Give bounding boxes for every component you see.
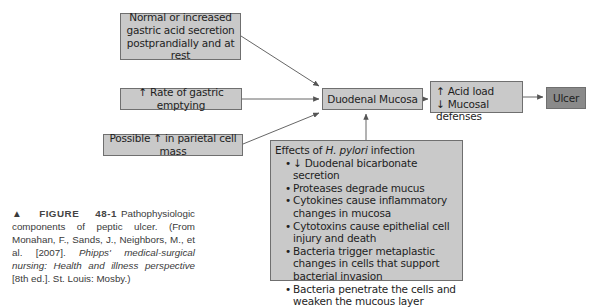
triangle-marker-icon: ▲ xyxy=(12,208,23,219)
caption-text-end: [8th ed.]. St. Louis: Mosby.) xyxy=(12,273,131,284)
node-line: postprandially and at rest xyxy=(121,37,240,62)
h-pylori-effects-list: ↓ Duodenal bicarbonate secretion Proteas… xyxy=(271,157,462,308)
figure-number: 48-1 xyxy=(95,208,117,219)
figure-label: FIGURE xyxy=(39,208,79,219)
node-label: Possible ↑ in parietal cell mass xyxy=(104,132,242,157)
list-item: Cytotoxins cause epithelial cell injury … xyxy=(285,220,462,245)
node-line: gastric acid secretion xyxy=(121,24,240,37)
h-pylori-title: Effects of H. pylori infection xyxy=(271,141,462,157)
node-line: ↑ Acid load xyxy=(436,85,522,98)
list-item: Cytokines cause inflammatory changes in … xyxy=(285,194,462,219)
node-normal-acid-secretion: Normal or increased gastric acid secreti… xyxy=(120,13,241,60)
node-parietal-cell-mass: Possible ↑ in parietal cell mass xyxy=(103,134,243,156)
node-h-pylori-effects: Effects of H. pylori infection ↓ Duodena… xyxy=(270,140,463,281)
node-duodenal-mucosa: Duodenal Mucosa xyxy=(322,88,423,110)
node-label: ↑ Rate of gastric emptying xyxy=(121,86,241,111)
list-item: Bacteria trigger metaplastic changes in … xyxy=(285,245,462,283)
title-suffix: infection xyxy=(368,144,415,156)
arrow-acid-to-mucosa xyxy=(241,36,319,86)
node-gastric-emptying: ↑ Rate of gastric emptying xyxy=(120,88,242,110)
list-item: ↓ Duodenal bicarbonate secretion xyxy=(285,157,462,182)
node-line: Normal or increased xyxy=(121,11,240,24)
list-item: Bacteria penetrate the cells and weaken … xyxy=(285,283,462,308)
figure-caption: ▲ FIGURE 48-1 Pathophysiologic component… xyxy=(12,207,195,285)
title-organism: H. pylori xyxy=(325,144,367,156)
node-acid-load-mucosal-defenses: ↑ Acid load ↓ Mucosal defenses xyxy=(430,81,523,113)
node-ulcer: Ulcer xyxy=(546,87,586,109)
node-label: Duodenal Mucosa xyxy=(327,93,417,106)
node-label: Ulcer xyxy=(553,92,579,105)
list-item: Proteases degrade mucus xyxy=(285,182,462,195)
node-line: ↓ Mucosal defenses xyxy=(436,98,522,123)
title-prefix: Effects of xyxy=(275,144,325,156)
